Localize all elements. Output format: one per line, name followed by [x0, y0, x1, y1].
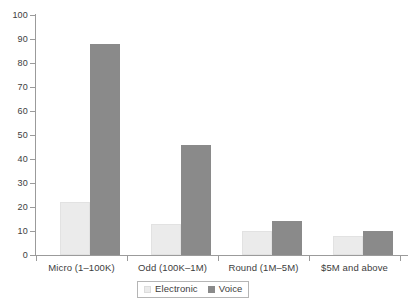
y-axis-tick-label: 80: [2, 59, 28, 68]
y-axis-tick-label: 0: [2, 251, 28, 260]
y-axis-tick-label: 30: [2, 179, 28, 188]
legend-label-voice: Voice: [219, 284, 243, 294]
y-axis: 100 90 80 70 60 50 40 30 20 10 0: [0, 0, 28, 306]
y-axis-tick-label: 20: [2, 203, 28, 212]
y-axis-tick-label: 90: [2, 35, 28, 44]
y-axis-tick-label: 50: [2, 131, 28, 140]
plot-area: [36, 15, 408, 255]
bar-group-micro: [60, 15, 120, 255]
legend-swatch-icon-electronic: [144, 286, 151, 293]
x-axis-category-label-5m: $5M and above: [309, 262, 400, 274]
y-axis-tick-label: 100: [2, 11, 28, 20]
bar-voice-round: [272, 221, 302, 255]
x-axis-tick: [218, 256, 219, 261]
y-axis-tick-label: 10: [2, 227, 28, 236]
bar-electronic-5m: [333, 236, 363, 255]
bar-electronic-round: [242, 231, 272, 255]
x-axis-category-label-micro: Micro (1–100K): [36, 262, 127, 274]
y-axis-tick-label: 40: [2, 155, 28, 164]
x-axis-tick: [127, 256, 128, 261]
bar-electronic-odd: [151, 224, 181, 255]
legend-swatch-icon-voice: [208, 286, 215, 293]
bar-group-5m-and-above: [333, 15, 393, 255]
legend-item-voice: Voice: [208, 284, 243, 294]
legend-item-electronic: Electronic: [144, 284, 198, 294]
bar-voice-micro: [90, 44, 120, 255]
x-axis-line: [35, 255, 408, 256]
x-axis-category-label-odd: Odd (100K–1M): [127, 262, 218, 274]
legend-label-electronic: Electronic: [155, 284, 198, 294]
y-axis-tick-label: 60: [2, 107, 28, 116]
y-axis-tick-label: 70: [2, 83, 28, 92]
x-axis-tick: [309, 256, 310, 261]
x-axis-category-label-round: Round (1M–5M): [218, 262, 309, 274]
bar-group-odd: [151, 15, 211, 255]
x-axis-tick: [36, 256, 37, 261]
bar-voice-odd: [181, 145, 211, 255]
bar-group-round: [242, 15, 302, 255]
legend: Electronic Voice: [137, 281, 249, 298]
bar-chart: 100 90 80 70 60 50 40 30 20 10 0: [0, 0, 413, 306]
bar-electronic-micro: [60, 202, 90, 255]
bar-voice-5m: [363, 231, 393, 255]
x-axis-tick: [400, 256, 401, 261]
